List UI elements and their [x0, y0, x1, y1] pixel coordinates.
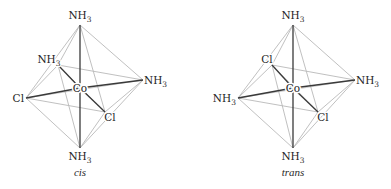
ligand-label-right: NH3 [356, 74, 379, 89]
octahedron-edge [58, 25, 80, 65]
octahedron-edge [58, 65, 80, 148]
octahedron-edge [293, 25, 355, 80]
octahedron-edge [26, 98, 80, 148]
octahedral-isomers-diagram: CoNH3NH3NH3ClClNH3 cis CoNH3ClNH3NH3ClNH… [0, 0, 391, 189]
isomer-caption-cis: cis [74, 166, 86, 178]
atom-labels: CoNH3ClNH3NH3ClNH3 [213, 9, 380, 165]
trans-isomer: CoNH3ClNH3NH3ClNH3 trans [213, 9, 380, 178]
octahedron-edge [238, 98, 293, 148]
cobalt-label: Co [73, 82, 87, 94]
equatorial-bond [293, 80, 355, 88]
cis-isomer: CoNH3NH3NH3ClClNH3 cis [13, 9, 168, 178]
octahedron-edge [80, 112, 105, 148]
ligand-label-top: NH3 [281, 9, 304, 24]
ligand-label-back: Cl [261, 53, 273, 65]
isomer-caption-trans: trans [282, 166, 305, 178]
ligand-label-front: Cl [104, 111, 116, 123]
ligand-label-right: NH3 [144, 74, 167, 89]
ligand-label-left: Cl [13, 92, 25, 104]
ligand-label-bottom: NH3 [281, 150, 304, 165]
cobalt-label: Co [286, 82, 300, 94]
octahedron-edge [293, 112, 318, 148]
octahedron-edge [80, 25, 105, 112]
octahedron-edge [80, 25, 143, 80]
ligand-label-front: Cl [317, 111, 329, 123]
equatorial-bond [80, 80, 143, 88]
ligand-label-bottom: NH3 [68, 150, 91, 165]
ligand-label-top: NH3 [68, 9, 91, 24]
ligand-label-left: NH3 [213, 92, 236, 107]
octahedron-edge [272, 25, 293, 65]
